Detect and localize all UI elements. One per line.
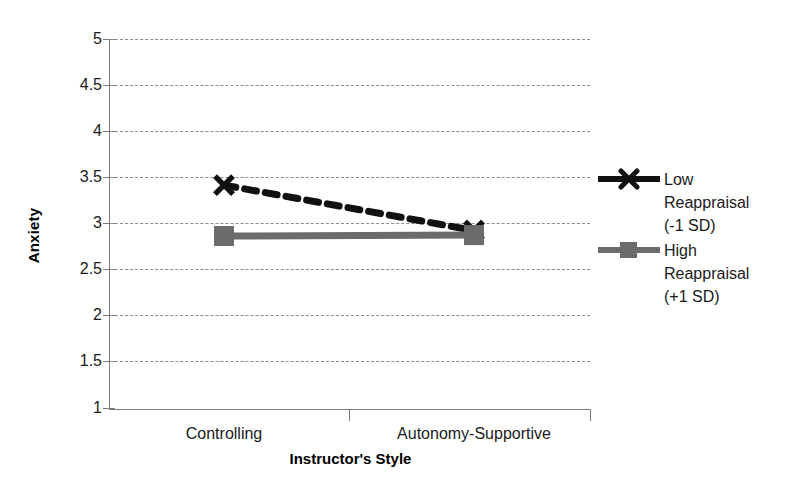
legend-marker-x-icon — [596, 168, 662, 190]
legend-entry-high-reappraisal[interactable]: High Reappraisal (+1 SD) — [596, 239, 792, 308]
legend-label-high-reappraisal: High Reappraisal (+1 SD) — [662, 239, 749, 308]
x-axis-title: Instructor's Style — [110, 450, 591, 467]
legend-entry-low-reappraisal[interactable]: Low Reappraisal (-1 SD) — [596, 168, 792, 237]
x-tick-label-autonomy-supportive: Autonomy-Supportive — [364, 424, 584, 444]
x-tick-label-controlling: Controlling — [144, 424, 304, 444]
series-high-reappraisal — [214, 225, 484, 246]
chart-figure: Anxiety 5 4.5 4 3.5 3 2.5 2 1.5 1 — [0, 0, 795, 498]
legend-label-low-reappraisal: Low Reappraisal (-1 SD) — [662, 168, 749, 237]
legend-key-low-reappraisal — [596, 168, 662, 190]
chart-legend: Low Reappraisal (-1 SD) High Reappraisal… — [596, 168, 792, 310]
legend-marker-square-icon — [596, 239, 662, 261]
legend-key-high-reappraisal — [596, 239, 662, 261]
series-low-reappraisal — [215, 176, 483, 239]
